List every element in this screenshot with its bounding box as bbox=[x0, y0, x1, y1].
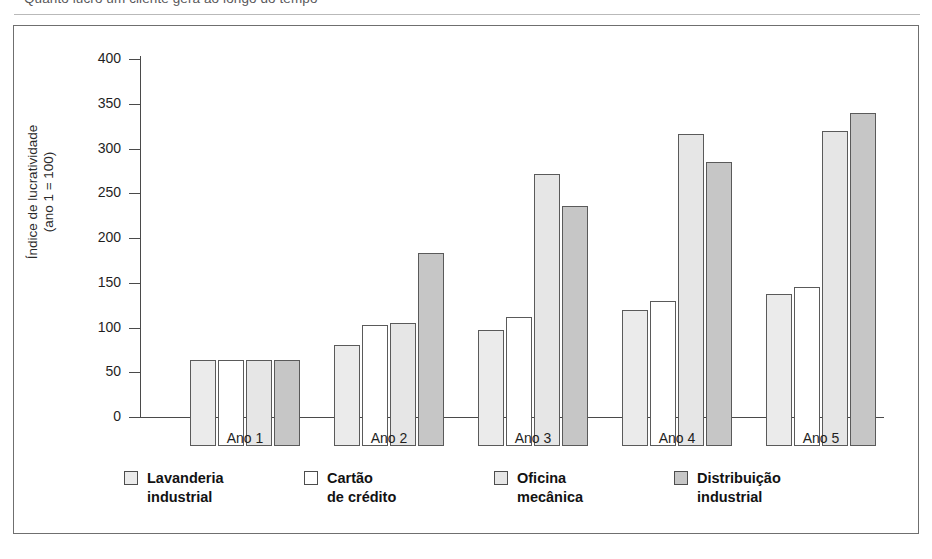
legend-label: Lavanderia industrial bbox=[147, 469, 224, 507]
header-rule bbox=[14, 14, 920, 15]
bar bbox=[706, 162, 732, 446]
bar-group bbox=[190, 85, 300, 446]
y-tick-label: 300 bbox=[63, 140, 121, 156]
y-tick bbox=[129, 193, 140, 194]
bar bbox=[362, 325, 388, 446]
y-tick-label: 50 bbox=[63, 363, 121, 379]
legend-label: Oficina mecânica bbox=[517, 469, 583, 507]
y-tick bbox=[129, 59, 140, 60]
y-tick-label: 350 bbox=[63, 95, 121, 111]
bar bbox=[822, 131, 848, 446]
x-axis-label: Ano 4 bbox=[607, 430, 747, 446]
bar-group bbox=[478, 85, 588, 446]
x-axis-label: Ano 5 bbox=[751, 430, 891, 446]
y-axis-label: Índice de lucratividade (ano 1 = 100) bbox=[25, 77, 57, 307]
bar bbox=[850, 113, 876, 446]
legend-item[interactable]: Lavanderia industrial bbox=[124, 469, 224, 507]
y-tick bbox=[129, 149, 140, 150]
legend-swatch-icon bbox=[674, 471, 688, 485]
legend-item[interactable]: Oficina mecânica bbox=[494, 469, 583, 507]
legend-item[interactable]: Cartão de crédito bbox=[304, 469, 396, 507]
x-axis-label: Ano 3 bbox=[463, 430, 603, 446]
bar-group bbox=[766, 85, 876, 446]
bar bbox=[794, 287, 820, 446]
y-tick-label: 150 bbox=[63, 274, 121, 290]
chart-figure: Índice de lucratividade (ano 1 = 100) 05… bbox=[13, 25, 919, 534]
bar bbox=[562, 206, 588, 446]
y-tick bbox=[129, 283, 140, 284]
bar bbox=[478, 330, 504, 446]
y-tick bbox=[129, 328, 140, 329]
bar bbox=[418, 253, 444, 446]
plot-area: Índice de lucratividade (ano 1 = 100) 05… bbox=[14, 26, 920, 446]
bar bbox=[766, 294, 792, 446]
x-axis-label: Ano 2 bbox=[319, 430, 459, 446]
y-tick-label: 0 bbox=[63, 408, 121, 424]
legend-label: Distribuição industrial bbox=[697, 469, 781, 507]
bar-group bbox=[334, 85, 444, 446]
bar bbox=[506, 317, 532, 446]
y-axis-line bbox=[140, 56, 141, 418]
x-axis-label: Ano 1 bbox=[175, 430, 315, 446]
legend-swatch-icon bbox=[494, 471, 508, 485]
y-tick-label: 100 bbox=[63, 319, 121, 335]
bar bbox=[390, 323, 416, 446]
y-tick-label: 400 bbox=[63, 50, 121, 66]
bar bbox=[678, 134, 704, 446]
y-tick-label: 250 bbox=[63, 184, 121, 200]
y-tick-label: 200 bbox=[63, 229, 121, 245]
legend-label: Cartão de crédito bbox=[327, 469, 396, 507]
y-tick bbox=[129, 372, 140, 373]
bar bbox=[650, 301, 676, 446]
bar-group bbox=[622, 85, 732, 446]
bar bbox=[622, 310, 648, 446]
legend-swatch-icon bbox=[304, 471, 318, 485]
legend-swatch-icon bbox=[124, 471, 138, 485]
chart-legend: Lavanderia industrialCartão de créditoOf… bbox=[14, 469, 920, 531]
legend-item[interactable]: Distribuição industrial bbox=[674, 469, 781, 507]
y-tick bbox=[129, 238, 140, 239]
bar bbox=[534, 174, 560, 446]
page-caption: Quanto lucro um cliente gera ao longo do… bbox=[24, 0, 904, 9]
y-tick bbox=[129, 417, 140, 418]
y-tick bbox=[129, 104, 140, 105]
